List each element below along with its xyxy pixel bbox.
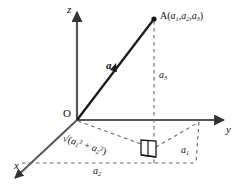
z-axis-label: z bbox=[67, 4, 71, 15]
y-axis-label: y bbox=[226, 124, 231, 135]
component-a3-sub: 3 bbox=[164, 74, 167, 81]
dashed-y-axis-to-base bbox=[196, 122, 199, 163]
x-axis-label: x bbox=[14, 160, 19, 171]
origin-label: O bbox=[63, 108, 71, 119]
vector-a-label: a bbox=[106, 60, 112, 71]
component-a1-sub: 1 bbox=[186, 149, 189, 156]
dashed-projection-to-y-axis bbox=[156, 122, 199, 147]
component-a2-sub: 2 bbox=[98, 170, 101, 177]
point-a-paren-close: ) bbox=[200, 10, 203, 21]
diagram-canvas bbox=[0, 0, 239, 186]
component-a1-label: a1 bbox=[181, 145, 189, 155]
right-angle-marker bbox=[141, 140, 156, 157]
x-axis bbox=[15, 120, 77, 178]
point-a-label: A(a1,a2,a3) bbox=[160, 11, 203, 21]
component-a2-label: a2 bbox=[93, 166, 101, 176]
vector-diagram-figure: z y x O a A(a1,a2,a3) a3 a1 a2 √(a12 + a… bbox=[0, 0, 239, 186]
component-a3-label: a3 bbox=[159, 70, 167, 80]
point-a-dot bbox=[151, 16, 156, 21]
projection-term1-sup: 2 bbox=[79, 138, 84, 146]
